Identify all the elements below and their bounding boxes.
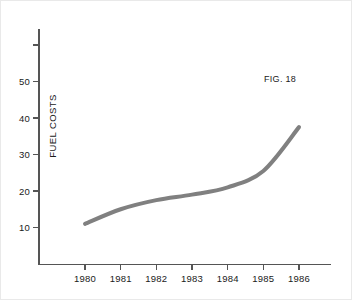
y-tick-label-10: 10 bbox=[19, 222, 30, 233]
x-tick-label-1983: 1983 bbox=[181, 273, 203, 284]
y-tick-label-50: 50 bbox=[19, 76, 30, 87]
x-tick-label-1986: 1986 bbox=[288, 273, 310, 284]
y-axis-title: FUEL COSTS bbox=[47, 94, 58, 157]
fuel-costs-curve bbox=[85, 127, 299, 224]
x-tick-label-1980: 1980 bbox=[74, 273, 96, 284]
figure-container: 50 40 30 20 10 FUEL COSTS 1980 1981 1982… bbox=[0, 0, 352, 300]
figure-caption: FIG. 18 bbox=[264, 74, 296, 84]
x-tick-label-1985: 1985 bbox=[252, 273, 274, 284]
x-tick-label-1984: 1984 bbox=[217, 273, 239, 284]
x-tick-label-1982: 1982 bbox=[145, 273, 167, 284]
x-tick-label-1981: 1981 bbox=[110, 273, 132, 284]
y-tick-label-30: 30 bbox=[19, 149, 30, 160]
y-tick-label-40: 40 bbox=[19, 113, 30, 124]
y-tick-label-20: 20 bbox=[19, 186, 30, 197]
fuel-costs-line-chart: 50 40 30 20 10 FUEL COSTS 1980 1981 1982… bbox=[1, 1, 352, 300]
